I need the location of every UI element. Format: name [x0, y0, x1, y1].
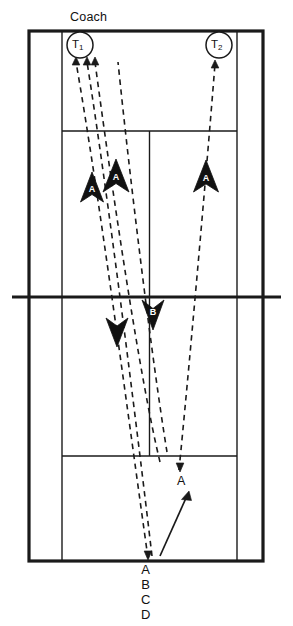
arrowhead-up-a2-letter: A [113, 172, 120, 182]
shuttle-path-d [118, 62, 167, 452]
shuttle-path-a2 [179, 64, 215, 470]
arrowhead-up-a2: A [103, 159, 129, 192]
player-t2-base: T [211, 38, 218, 50]
coach-label: Coach [70, 10, 107, 24]
court-lines [12, 31, 281, 561]
arrowhead-down-2: B [142, 300, 164, 330]
arrowhead-up-a3-letter: A [203, 173, 210, 183]
movement-arrow-shaft [160, 498, 186, 556]
player-tokens [67, 32, 232, 58]
movement-arrow-label: A [177, 474, 185, 488]
tip-arrow-down-2 [176, 463, 184, 472]
tip-arrow-up-2 [83, 57, 91, 65]
court-svg: A A A B [0, 0, 293, 626]
shuttle-path-b [87, 62, 152, 556]
downward-arrowheads: B [106, 300, 164, 347]
sequence-label-d: D [141, 607, 150, 622]
movement-arrow-head [182, 491, 192, 501]
top-tip-arrows [72, 57, 219, 68]
shuttle-path-a [76, 62, 148, 558]
sequence-label-a: A [141, 562, 150, 577]
arrowhead-up-a3: A [194, 160, 219, 192]
tip-arrow-up-3 [91, 57, 99, 65]
player-movement-arrow [160, 491, 192, 556]
court-diagram: A A A B [0, 0, 293, 626]
player-label-t2: T2 [211, 38, 222, 50]
arrowhead-up-a1: A [81, 172, 104, 202]
sequence-label-stack: A B C D [141, 562, 150, 622]
player-t2-sub: 2 [218, 43, 222, 52]
sequence-label-b: B [141, 577, 150, 592]
player-t1-base: T [72, 38, 79, 50]
arrowhead-up-a1-letter: A [89, 184, 96, 194]
player-t1-sub: 1 [79, 43, 83, 52]
tip-arrow-up-4 [211, 60, 219, 68]
shuttle-path-c [95, 62, 160, 462]
tip-arrow-down-1 [144, 551, 152, 560]
sequence-label-c: C [141, 592, 150, 607]
player-label-t1: T1 [72, 38, 83, 50]
arrowhead-down-2-letter: B [150, 307, 157, 317]
